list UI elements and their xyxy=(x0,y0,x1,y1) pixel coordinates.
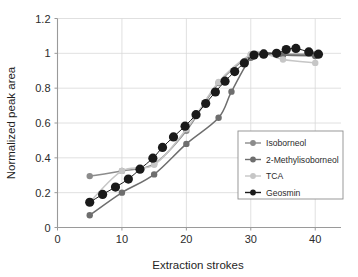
data-point-marker xyxy=(304,47,313,56)
data-point-marker xyxy=(272,49,281,58)
data-point-marker xyxy=(87,173,93,179)
y-tick-label: 0.6 xyxy=(35,117,50,129)
data-point-marker xyxy=(191,110,200,119)
data-point-marker xyxy=(111,182,120,191)
data-point-marker xyxy=(158,143,167,152)
legend-label: Geosmin xyxy=(266,188,301,198)
data-point-marker xyxy=(240,58,249,67)
x-axis-title: Extraction strokes xyxy=(152,259,244,271)
y-tick-label: 0.8 xyxy=(35,82,50,94)
legend-marker-icon xyxy=(250,190,256,196)
legend-marker-icon xyxy=(250,173,256,179)
x-tick-label: 10 xyxy=(116,233,128,245)
data-point-marker xyxy=(228,88,234,94)
data-point-marker xyxy=(169,132,178,141)
y-tick-label: 0.4 xyxy=(35,152,50,164)
y-tick-label: 1 xyxy=(44,47,50,59)
data-point-marker xyxy=(282,45,291,54)
data-point-marker xyxy=(119,168,125,174)
data-point-marker xyxy=(230,67,239,76)
data-point-marker xyxy=(148,154,157,163)
data-point-marker xyxy=(314,50,323,59)
data-point-marker xyxy=(151,171,157,177)
y-tick-label: 0.2 xyxy=(35,187,50,199)
data-point-marker xyxy=(87,212,93,218)
data-point-marker xyxy=(220,77,229,86)
x-tick-label: 20 xyxy=(180,233,192,245)
legend-label: Isoborneol xyxy=(266,138,306,148)
normalized-peak-area-line-chart: 010203040 00.20.40.60.811.2 Extraction s… xyxy=(0,0,358,277)
data-point-marker xyxy=(280,56,286,62)
data-point-marker xyxy=(124,174,133,183)
chart-figure: 010203040 00.20.40.60.811.2 Extraction s… xyxy=(0,0,358,277)
data-point-marker xyxy=(291,44,300,53)
chart-legend: Isoborneol2-MethylisoborneolTCAGeosmin xyxy=(238,131,343,199)
data-point-marker xyxy=(312,60,318,66)
y-tick-label: 1.2 xyxy=(35,13,50,25)
legend-marker-icon xyxy=(250,157,256,163)
y-axis-title: Normalized peak area xyxy=(5,66,17,179)
legend-label: TCA xyxy=(266,171,283,181)
data-point-marker xyxy=(135,165,144,174)
data-point-marker xyxy=(249,50,258,59)
data-point-marker xyxy=(259,50,268,59)
data-point-marker xyxy=(119,189,125,195)
legend-marker-icon xyxy=(250,140,256,146)
x-tick-label: 30 xyxy=(245,233,257,245)
data-point-marker xyxy=(211,87,220,96)
legend-label: 2-Methylisoborneol xyxy=(266,155,339,165)
x-tick-label: 0 xyxy=(54,233,60,245)
y-tick-label: 0 xyxy=(44,222,50,234)
data-point-marker xyxy=(183,141,189,147)
data-point-marker xyxy=(201,99,210,108)
data-point-marker xyxy=(85,198,94,207)
x-tick-label: 40 xyxy=(309,233,321,245)
data-point-marker xyxy=(180,122,189,131)
data-point-marker xyxy=(98,190,107,199)
data-point-marker xyxy=(215,115,221,121)
